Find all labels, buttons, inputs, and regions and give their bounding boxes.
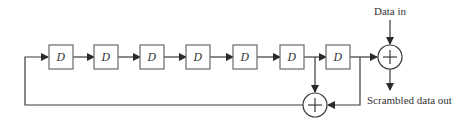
register-3: D [140, 45, 164, 69]
register-label: D [240, 51, 250, 64]
scrambler-diagram: D D D D D D D Data in Scrambled data out [0, 0, 468, 126]
register-label: D [333, 51, 343, 64]
register-4: D [186, 45, 210, 69]
register-label: D [56, 51, 66, 64]
data-out-label: Scrambled data out [367, 94, 452, 106]
register-6: D [280, 45, 304, 69]
register-label: D [287, 51, 297, 64]
xor-gate-feedback [303, 93, 327, 117]
register-7: D [326, 45, 350, 69]
register-label: D [101, 51, 111, 64]
register-label: D [193, 51, 203, 64]
data-in-label: Data in [374, 5, 407, 17]
register-label: D [147, 51, 157, 64]
register-2: D [94, 45, 118, 69]
register-1: D [49, 45, 73, 69]
xor-gate-output [378, 45, 402, 69]
register-5: D [233, 45, 257, 69]
